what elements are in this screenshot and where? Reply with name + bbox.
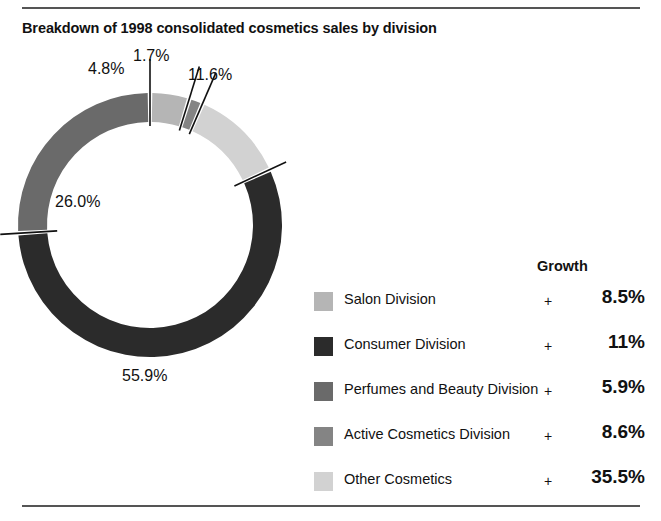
- legend-label: Active Cosmetics Division: [344, 426, 510, 442]
- donut-slice: [193, 105, 269, 180]
- slice-label-salon: 4.8%: [88, 60, 124, 78]
- legend-swatch: [314, 337, 333, 356]
- legend-row-list: Salon Division+8.5%Consumer Division+11%…: [312, 282, 652, 507]
- legend-swatch: [314, 472, 333, 491]
- legend-label: Other Cosmetics: [344, 471, 452, 487]
- legend-row: Consumer Division+11%: [312, 327, 652, 372]
- legend-plus-sign: +: [544, 293, 552, 309]
- legend-label: Salon Division: [344, 291, 436, 307]
- slice-label-perfumes: 26.0%: [55, 193, 100, 211]
- legend-swatch: [314, 427, 333, 446]
- legend-growth-value: 5.9%: [570, 376, 645, 398]
- legend-row: Salon Division+8.5%: [312, 282, 652, 327]
- slice-label-consumer: 55.9%: [122, 367, 167, 385]
- slice-label-active-cosmetics: 1.7%: [133, 47, 169, 65]
- legend-growth-value: 11%: [570, 331, 645, 353]
- donut-chart: 4.8% 1.7% 11.6% 55.9% 26.0%: [0, 0, 320, 420]
- donut-slice-group: [18, 93, 282, 357]
- legend-growth-value: 8.5%: [570, 286, 645, 308]
- legend-plus-sign: +: [544, 428, 552, 444]
- slice-label-other-cosmetics: 11.6%: [188, 66, 232, 84]
- legend-plus-sign: +: [544, 383, 552, 399]
- legend-growth-value: 35.5%: [570, 466, 645, 488]
- figure-root: Breakdown of 1998 consolidated cosmetics…: [0, 0, 661, 521]
- legend-growth-header: Growth: [537, 258, 588, 274]
- legend-plus-sign: +: [544, 473, 552, 489]
- legend-label: Perfumes and Beauty Division: [344, 381, 538, 397]
- legend-growth-value: 8.6%: [570, 421, 645, 443]
- legend-swatch: [314, 382, 333, 401]
- legend-row: Perfumes and Beauty Division+5.9%: [312, 372, 652, 417]
- legend-swatch: [314, 292, 333, 311]
- legend-row: Active Cosmetics Division+8.6%: [312, 417, 652, 462]
- bottom-divider: [22, 505, 640, 507]
- legend-row: Other Cosmetics+35.5%: [312, 462, 652, 507]
- donut-leader-line: [0, 231, 57, 235]
- legend-plus-sign: +: [544, 338, 552, 354]
- legend-label: Consumer Division: [344, 336, 466, 352]
